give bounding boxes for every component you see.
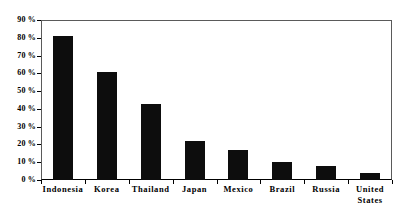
y-axis-tick-mark [37,56,41,57]
y-axis-tick-label: 70 % [0,52,36,60]
bar [360,173,380,180]
x-axis-tick-mark [260,180,261,184]
x-axis-category-label: Mexico [217,184,261,195]
x-axis-tick-mark [304,180,305,184]
y-axis: 0 %10 %20 %30 %40 %50 %60 %70 %80 %90 % [0,0,36,217]
x-axis-category-label: United States [348,184,392,205]
x-axis-category-label: Thailand [129,184,173,195]
bar [141,104,161,180]
x-axis-category-label: Japan [173,184,217,195]
y-axis-tick-mark [37,20,41,21]
x-axis-category-label: Indonesia [41,184,85,195]
y-axis-tick-label: 0 % [0,176,36,184]
x-axis-tick-mark [85,180,86,184]
bar [272,162,292,180]
y-axis-tick-mark [37,91,41,92]
y-axis-tick-mark [37,38,41,39]
y-axis-tick-mark [37,162,41,163]
x-axis-tick-mark [129,180,130,184]
x-axis-tick-mark [41,180,42,184]
y-axis-tick-label: 30 % [0,123,36,131]
x-axis-tick-mark [217,180,218,184]
bar [228,150,248,180]
y-axis-tick-label: 50 % [0,87,36,95]
y-axis-tick-label: 80 % [0,34,36,42]
x-axis-category-label: Russia [304,184,348,195]
bar [53,36,73,180]
x-axis: IndonesiaKoreaThailandJapanMexicoBrazilR… [41,184,392,217]
bar [316,166,336,180]
x-axis-category-label: Korea [85,184,129,195]
y-axis-tick-label: 20 % [0,140,36,148]
x-axis-tick-mark [392,180,393,184]
y-axis-tick-label: 10 % [0,158,36,166]
y-axis-tick-label: 60 % [0,69,36,77]
bar [185,141,205,180]
x-axis-category-label: Brazil [260,184,304,195]
y-axis-tick-mark [37,127,41,128]
bars-group [41,20,392,180]
y-axis-tick-mark [37,73,41,74]
y-axis-tick-mark [37,109,41,110]
bar-chart: 0 %10 %20 %30 %40 %50 %60 %70 %80 %90 % … [0,0,415,217]
y-axis-tick-label: 90 % [0,16,36,24]
y-axis-tick-label: 40 % [0,105,36,113]
y-axis-tick-mark [37,144,41,145]
x-axis-tick-mark [348,180,349,184]
x-axis-tick-mark [173,180,174,184]
bar [97,72,117,180]
